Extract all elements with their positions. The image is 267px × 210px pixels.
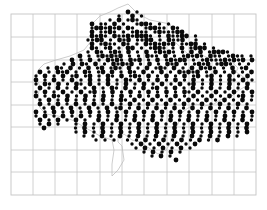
occurrence-dot <box>208 106 213 111</box>
occurrence-dot <box>139 142 144 147</box>
occurrence-dot <box>182 102 187 107</box>
occurrence-dot <box>237 58 240 61</box>
occurrence-dot <box>179 138 184 143</box>
occurrence-dot <box>165 94 168 97</box>
occurrence-dot <box>103 62 106 65</box>
occurrence-dot <box>214 90 219 95</box>
occurrence-dot <box>108 46 113 51</box>
occurrence-dot <box>227 94 232 99</box>
occurrence-dot <box>177 70 182 75</box>
occurrence-dot <box>236 86 239 89</box>
occurrence-dot <box>105 54 108 57</box>
occurrence-dot <box>173 94 178 99</box>
occurrence-dot <box>56 102 61 107</box>
occurrence-dot <box>223 110 226 113</box>
occurrence-dot <box>112 22 117 27</box>
occurrence-dot <box>150 154 153 157</box>
occurrence-dot <box>196 118 199 121</box>
occurrence-dot <box>231 70 236 75</box>
occurrence-dot <box>182 122 185 125</box>
occurrence-dot <box>128 70 133 75</box>
occurrence-dot <box>232 118 235 121</box>
occurrence-dot <box>134 146 137 149</box>
occurrence-dot <box>128 102 133 107</box>
occurrence-dot <box>96 106 99 109</box>
occurrence-dot <box>226 106 231 111</box>
occurrence-dot <box>93 62 98 67</box>
occurrence-dot <box>155 130 160 135</box>
occurrence-dot <box>176 34 179 37</box>
occurrence-dot <box>178 82 183 87</box>
occurrence-dot <box>163 50 166 53</box>
occurrence-dot <box>164 130 167 133</box>
occurrence-dot <box>181 66 184 69</box>
occurrence-dot <box>117 14 120 17</box>
occurrence-dot <box>117 26 122 31</box>
occurrence-dot <box>142 118 145 121</box>
occurrence-dot <box>155 86 160 91</box>
occurrence-dot <box>218 86 221 89</box>
occurrence-dot <box>219 78 222 81</box>
occurrence-dot <box>68 66 73 71</box>
occurrence-dot <box>219 94 222 97</box>
occurrence-dot <box>104 30 107 33</box>
occurrence-dot <box>56 86 61 91</box>
occurrence-dot <box>128 54 131 57</box>
occurrence-dot <box>138 74 141 77</box>
occurrence-dot <box>168 154 171 157</box>
occurrence-dot <box>114 118 119 123</box>
occurrence-dot <box>100 54 105 59</box>
occurrence-dot <box>208 134 213 139</box>
occurrence-dot <box>186 70 191 75</box>
occurrence-dot <box>222 118 227 123</box>
occurrence-dot <box>83 86 86 89</box>
occurrence-dot <box>143 138 148 143</box>
occurrence-dot <box>47 118 50 121</box>
occurrence-dot <box>135 42 138 45</box>
occurrence-dot <box>165 62 170 67</box>
occurrence-dot <box>196 98 199 101</box>
occurrence-dot <box>178 58 183 63</box>
occurrence-dot <box>171 34 174 37</box>
occurrence-dot <box>139 62 142 65</box>
occurrence-dot <box>52 114 55 117</box>
occurrence-dot <box>218 54 221 57</box>
occurrence-dot <box>83 102 86 105</box>
occurrence-dot <box>154 134 159 139</box>
occurrence-dot <box>47 86 50 89</box>
occurrence-dot <box>74 130 77 133</box>
distribution-map <box>0 0 267 210</box>
occurrence-dot <box>155 58 160 63</box>
occurrence-dot <box>147 62 152 67</box>
occurrence-dot <box>34 90 37 93</box>
occurrence-dot <box>93 94 96 97</box>
occurrence-dot <box>182 58 187 63</box>
occurrence-dot <box>146 126 149 129</box>
occurrence-dot <box>149 22 152 25</box>
occurrence-dot <box>87 106 92 111</box>
occurrence-dot <box>79 78 82 81</box>
occurrence-dot <box>193 62 196 65</box>
occurrence-dot <box>97 58 100 61</box>
occurrence-dot <box>173 54 176 57</box>
occurrence-dot <box>137 54 140 57</box>
occurrence-dot <box>187 82 190 85</box>
occurrence-dot <box>214 98 217 101</box>
occurrence-dot <box>209 86 214 91</box>
occurrence-dot <box>141 70 146 75</box>
occurrence-dot <box>55 66 60 71</box>
occurrence-dot <box>189 42 194 47</box>
occurrence-dot <box>162 26 165 29</box>
occurrence-dot <box>34 94 39 99</box>
occurrence-dot <box>43 74 48 79</box>
occurrence-dot <box>122 22 125 25</box>
occurrence-dot <box>223 70 226 73</box>
occurrence-dot <box>103 138 106 141</box>
occurrence-dot <box>240 98 245 103</box>
occurrence-dot <box>213 70 218 75</box>
occurrence-dot <box>232 90 237 95</box>
occurrence-dot <box>215 62 218 65</box>
occurrence-dot <box>178 114 181 117</box>
occurrence-dot <box>182 74 187 79</box>
occurrence-dot <box>241 78 246 83</box>
